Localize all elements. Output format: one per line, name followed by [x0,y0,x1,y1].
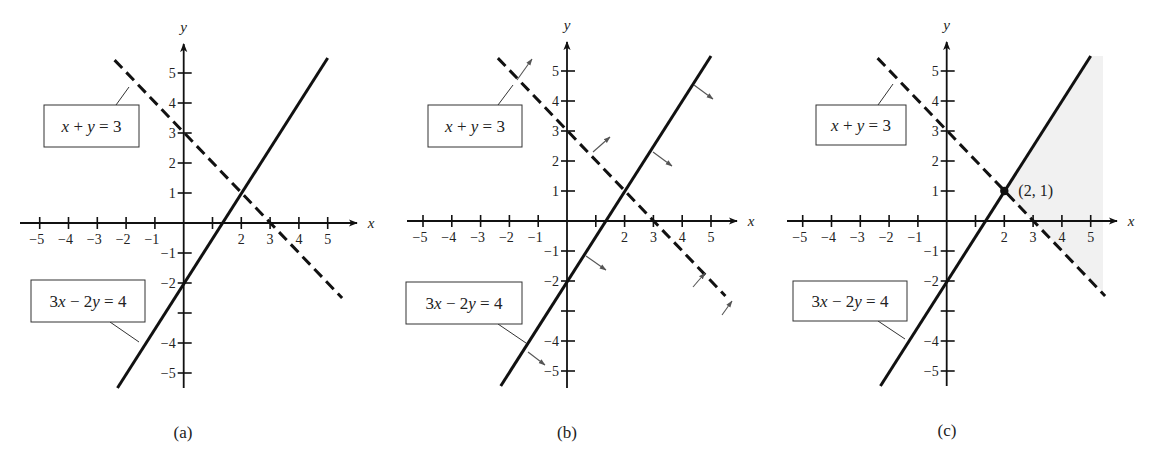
figure: xy−5−4−3−2−1234554321−1−2−4−5x + y = 33x… [0,0,1154,460]
y-tick-label: 5 [552,64,559,79]
leader-line [878,84,893,105]
x-tick-label: 4 [679,230,686,245]
x-tick-label: −4 [441,230,456,245]
label-3x-minus-2y-4: 3x − 2y = 4 [50,292,127,311]
y-tick-label: −4 [161,336,176,351]
y-tick-label: −2 [544,274,559,289]
x-tick-label: −5 [413,230,428,245]
x-tick-label: 3 [267,232,274,247]
x-tick-label: −2 [499,230,514,245]
y-tick-label: 4 [169,96,176,111]
y-tick-label: −5 [544,364,559,379]
y-tick-label: 2 [552,154,559,169]
x-tick-label: −4 [58,232,73,247]
y-tick-label: −2 [924,274,939,289]
line-x-plus-y-equals-3 [498,58,726,296]
intersection-point-label: (2, 1) [1018,182,1053,200]
y-tick-label: 1 [552,184,559,199]
half-plane-arrow [593,137,610,152]
y-tick-label: 3 [932,124,939,139]
x-axis-label: x [1127,213,1135,229]
label-x-plus-y-3: x + y = 3 [61,117,122,136]
half-plane-arrow [694,85,713,99]
y-tick-label: 1 [932,184,939,199]
label-x-plus-y-3: x + y = 3 [444,117,505,136]
graph-panel-b: xy−5−4−3−2−1234554321−1−2−4−5x + y = 33x… [406,17,755,442]
half-plane-arrow [722,301,732,315]
y-tick-label: 4 [932,94,939,109]
graph-panel-c: xy−5−4−3−2−1234554321−1−2−4−5x + y = 33x… [787,17,1135,440]
x-tick-label: −3 [87,232,102,247]
x-tick-label: −3 [850,230,865,245]
y-tick-label: −5 [161,366,176,381]
x-tick-label: 5 [1087,230,1094,245]
y-axis-label: y [178,19,187,35]
x-tick-label: 2 [1001,230,1008,245]
graph-panel-a: xy−5−4−3−2−1234554321−1−2−4−5x + y = 33x… [20,19,375,442]
leader-line [498,324,526,343]
label-3x-minus-2y-4: 3x − 2y = 4 [812,292,889,311]
intersection-point [1000,187,1008,195]
y-tick-label: −4 [544,334,559,349]
y-tick-label: 5 [169,66,176,81]
x-tick-label: −1 [907,230,922,245]
y-tick-label: −4 [924,334,939,349]
y-axis-label: y [562,17,571,33]
leader-line [116,87,129,105]
leader-line [110,322,139,342]
y-tick-label: 4 [552,94,559,109]
x-tick-label: 2 [238,232,245,247]
x-tick-label: 2 [621,230,628,245]
y-tick-label: 1 [169,186,176,201]
x-tick-label: 5 [324,232,331,247]
y-tick-label: 3 [552,124,559,139]
x-tick-label: −3 [470,230,485,245]
x-tick-label: 5 [708,230,715,245]
y-tick-label: −5 [924,364,939,379]
half-plane-arrow [586,256,606,270]
x-tick-label: −2 [116,232,131,247]
x-tick-label: −2 [879,230,894,245]
x-axis-label: x [367,215,375,231]
leader-line [498,85,513,105]
y-tick-label: −1 [544,244,559,259]
leader-line [878,321,905,339]
half-plane-arrow [653,152,672,166]
x-tick-label: 3 [1030,230,1037,245]
half-plane-arrow [528,352,545,365]
x-tick-label: −1 [528,230,543,245]
x-tick-label: 3 [650,230,657,245]
panel-caption-c: (c) [938,421,957,440]
x-axis-label: x [747,213,755,229]
y-tick-label: 3 [169,126,176,141]
line-x-plus-y-equals-3 [115,60,343,298]
y-tick-label: 2 [169,156,176,171]
y-tick-label: 2 [932,154,939,169]
x-tick-label: −5 [792,230,807,245]
half-plane-arrow [517,59,532,80]
solution-region-shade [1004,56,1103,292]
x-tick-label: 4 [1058,230,1065,245]
x-tick-label: −4 [821,230,836,245]
label-x-plus-y-3: x + y = 3 [830,116,891,135]
y-tick-label: −1 [161,246,176,261]
y-tick-label: 5 [932,64,939,79]
panel-caption-a: (a) [174,423,193,442]
x-tick-label: −5 [29,232,44,247]
half-plane-arrow [693,273,705,287]
y-axis-label: y [941,17,950,33]
x-tick-label: −1 [144,232,159,247]
y-tick-label: −2 [161,276,176,291]
y-tick-label: −1 [924,244,939,259]
panel-caption-b: (b) [557,423,577,442]
x-tick-label: 4 [295,232,302,247]
label-3x-minus-2y-4: 3x − 2y = 4 [426,294,503,313]
